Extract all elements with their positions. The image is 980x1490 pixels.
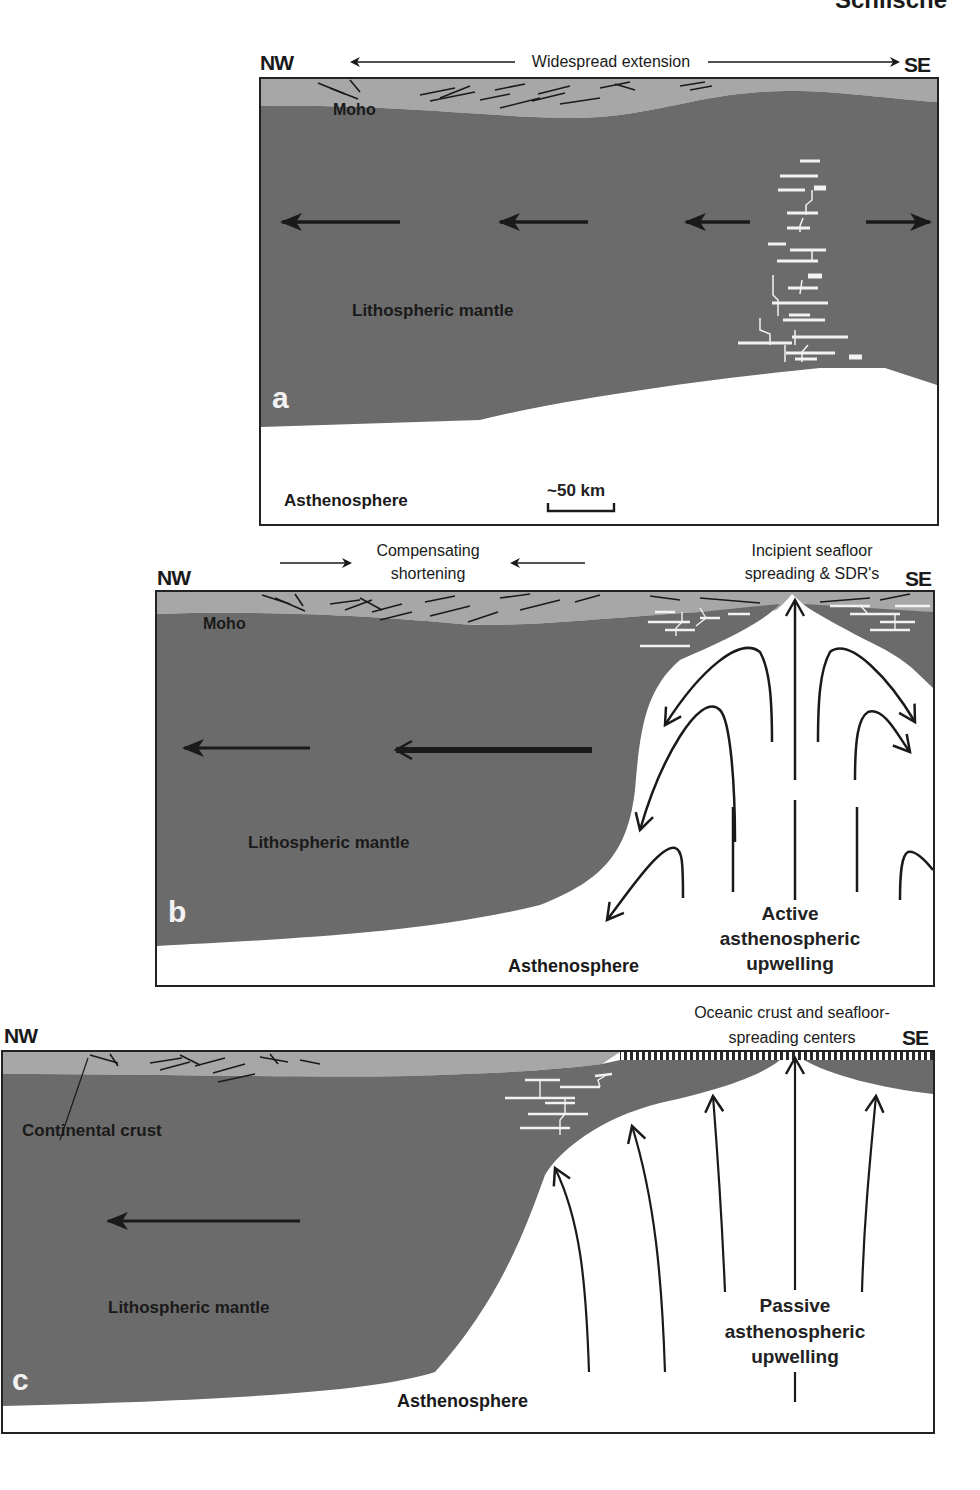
oceanic-label-line2: spreading centers [728,1029,855,1046]
nw-label: NW [4,1024,38,1047]
rift-evolution-diagram: Schlische NW SE Widespread extension Moh… [0,0,980,1490]
panel-a: NW SE Widespread extension Moho [260,51,938,525]
se-label: SE [904,53,931,76]
upwelling-label-line2: asthenospheric [725,1321,866,1342]
panel-letter: a [272,381,289,414]
upwelling-label-line3: upwelling [751,1346,839,1367]
asthenosphere-label: Asthenosphere [508,956,639,976]
upwelling-label-line3: upwelling [746,953,834,974]
continental-crust-label: Continental crust [22,1121,162,1140]
panel-c: NW SE Oceanic crust and seafloor- spread… [2,1004,934,1433]
lithospheric-mantle-label: Lithospheric mantle [108,1298,270,1317]
page-header-fragment: Schlische [835,0,947,13]
shortening-label-line2: shortening [391,565,466,582]
spreading-label-line1: Incipient seafloor [752,542,874,559]
moho-label: Moho [333,101,376,118]
se-label: SE [905,567,932,590]
upwelling-label-line1: Active [761,903,818,924]
spreading-label-line2: spreading & SDR's [745,565,880,582]
asthenosphere-label: Asthenosphere [284,491,408,510]
panel-letter: c [12,1363,29,1396]
nw-label: NW [260,51,294,74]
oceanic-crust [620,1052,933,1060]
nw-label: NW [157,566,191,589]
se-label: SE [902,1026,929,1049]
panel-letter: b [168,895,186,928]
oceanic-label-line1: Oceanic crust and seafloor- [694,1004,890,1021]
shortening-label-line1: Compensating [376,542,479,559]
asthenosphere-label: Asthenosphere [397,1391,528,1411]
widespread-extension-label: Widespread extension [532,53,690,70]
upwelling-label-line2: asthenospheric [720,928,861,949]
lithospheric-mantle-label: Lithospheric mantle [352,301,514,320]
moho-label: Moho [203,615,246,632]
panel-b: NW SE Compensating shortening Incipient … [156,542,934,986]
lithospheric-mantle-label: Lithospheric mantle [248,833,410,852]
scale-bar-label: ~50 km [547,481,605,500]
upwelling-label-line1: Passive [760,1295,831,1316]
